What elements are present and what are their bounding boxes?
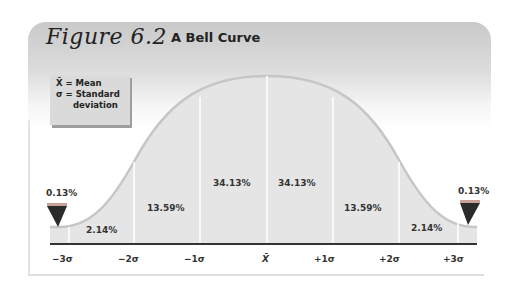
region-label-right-tail: 0.13% [458, 186, 489, 196]
axis-label-mean: X̄ [261, 253, 270, 264]
region-label-mean-plus1: 34.13% [278, 178, 316, 188]
axis-label-minus2: −2σ [118, 254, 139, 264]
axis-label-minus1: −1σ [184, 254, 205, 264]
region-label-left-tail: 0.13% [46, 188, 77, 198]
right-tail-marker-icon [460, 200, 480, 225]
axis-label-minus3: −3σ [52, 254, 73, 264]
legend-box: X̄ = Mean σ = Standard deviation [50, 75, 130, 125]
axis-label-plus3: +3σ [443, 254, 464, 264]
axis-label-plus2: +2σ [379, 254, 400, 264]
region-label-plus1-plus2: 13.59% [344, 203, 382, 213]
region-label-plus2-plus3: 2.14% [411, 223, 442, 233]
region-label-minus3-minus2: 2.14% [86, 225, 117, 235]
region-label-minus1-mean: 34.13% [213, 178, 251, 188]
legend-mean: X̄ = Mean [56, 78, 130, 89]
left-tail-marker-icon [47, 203, 67, 227]
legend-sigma: σ = Standard [56, 89, 130, 100]
axis-label-plus1: +1σ [314, 254, 335, 264]
bell-curve-chart: 0.13% 2.14% 13.59% 34.13% 34.13% 13.59% … [0, 0, 531, 292]
legend-sigma-cont: deviation [56, 100, 130, 111]
region-label-minus2-minus1: 13.59% [147, 203, 185, 213]
